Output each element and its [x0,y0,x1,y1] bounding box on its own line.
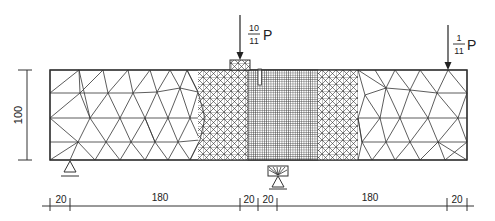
transition-mesh-left [198,70,248,160]
support-left [61,161,79,176]
load-right-denominator: 11 [454,46,463,56]
load-main-denominator: 11 [249,36,258,46]
load-arrow-right: 1 11 P [445,25,477,70]
load-right-numerator: 1 [456,33,461,43]
dim-label-5: 180 [362,192,379,203]
load-label-right: 1 11 P [453,33,476,56]
dim-label-2: 180 [152,192,169,203]
load-right-symbol: P [467,37,476,53]
load-arrow-main: 10 11 P [237,15,273,60]
transition-mesh-right [318,70,358,160]
dim-label-4: 20 [262,194,274,205]
bottom-dimension-labels: 20 180 20 20 180 20 [55,192,463,205]
support-center [268,166,288,189]
pin-support-icon [272,176,284,187]
notch [258,69,262,85]
dim-label-6: 20 [451,194,463,205]
height-dimension-label: 100 [12,106,24,124]
pin-support-icon [64,161,76,172]
load-label-main: 10 11 P [248,23,272,46]
beam [50,69,467,160]
load-main-numerator: 10 [249,23,259,33]
bottom-dimension [42,198,474,211]
load-plate [230,60,250,70]
fem-beam-diagram: 10 11 P 1 11 P [0,0,495,221]
dim-label-3: 20 [243,194,255,205]
load-main-symbol: P [263,27,272,43]
dim-label-1: 20 [55,194,67,205]
